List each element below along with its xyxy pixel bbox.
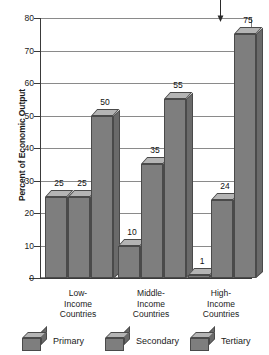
x-axis-line: [29, 278, 252, 279]
y-axis-tick-mark: [34, 278, 41, 279]
y-axis-tick-label: 0: [4, 273, 34, 283]
gridline: [41, 51, 252, 52]
y-axis-tick-mark: [34, 213, 41, 214]
y-axis-tick-label: 60: [4, 78, 34, 88]
bar-chart: Percent of Economic Output 8070605040302…: [0, 0, 269, 355]
legend-item-primary[interactable]: Primary: [22, 330, 84, 352]
category-label-line: High-: [183, 288, 259, 299]
y-axis-tick-mark: [34, 51, 41, 52]
bar-front-face: [234, 34, 256, 278]
y-axis-tick-label: 50: [4, 111, 34, 121]
bar-front-face: [68, 197, 90, 278]
legend-item-tertiary[interactable]: Tertiary: [190, 330, 251, 352]
bar-value-label: 55: [158, 80, 198, 90]
bar-primary-1: [45, 190, 67, 278]
chart-legend: PrimarySecondaryTertiary: [0, 330, 269, 355]
bar-side-face: [256, 28, 263, 278]
y-axis-tick-mark: [34, 116, 41, 117]
legend-item-secondary[interactable]: Secondary: [105, 330, 179, 352]
legend-label: Tertiary: [221, 336, 251, 346]
bar-side-face: [186, 93, 193, 278]
y-axis-tick-mark: [34, 148, 41, 149]
bar-secondary-2: [141, 157, 163, 278]
bar-front-face: [141, 164, 163, 278]
legend-cube-icon: [22, 332, 48, 351]
y-axis-tick-label: 80: [4, 13, 34, 23]
legend-cube-icon: [105, 332, 131, 351]
category-label-line: Middle-: [113, 288, 189, 299]
cube-front-face: [22, 338, 41, 351]
pointer-arrow-annotation: [216, 0, 225, 22]
cube-front-face: [190, 338, 209, 351]
category-label-1: Low-IncomeCountries: [40, 288, 116, 320]
bar-tertiary-1: [91, 109, 113, 279]
y-axis-tick-label: 20: [4, 208, 34, 218]
category-label-2: Middle-IncomeCountries: [113, 288, 189, 320]
bar-primary-2: [118, 239, 140, 279]
category-label-line: Countries: [113, 309, 189, 320]
bar-value-label: 50: [85, 97, 125, 107]
bar-front-face: [118, 246, 140, 279]
legend-label: Primary: [53, 336, 84, 346]
bar-secondary-3: [211, 193, 233, 278]
y-axis-tick-mark: [34, 83, 41, 84]
bar-front-face: [164, 99, 186, 278]
bar-front-face: [45, 197, 67, 278]
bar-front-face: [188, 275, 210, 278]
bar-tertiary-2: [164, 92, 186, 278]
y-axis-tick-mark: [34, 246, 41, 247]
y-axis-tick-label: 30: [4, 176, 34, 186]
category-label-line: Income: [113, 299, 189, 310]
cube-front-face: [105, 338, 124, 351]
category-label-3: High-IncomeCountries: [183, 288, 259, 320]
bar-secondary-1: [68, 190, 90, 278]
gridline: [41, 83, 252, 84]
legend-cube-icon: [190, 332, 216, 351]
bar-value-label: 75: [228, 15, 268, 25]
y-axis-tick-mark: [34, 18, 41, 19]
bar-primary-3: [188, 268, 210, 278]
bar-tertiary-3: [234, 27, 256, 278]
bar-front-face: [211, 200, 233, 278]
y-axis-tick-label: 40: [4, 143, 34, 153]
y-axis-tick-label: 70: [4, 46, 34, 56]
category-label-line: Income: [183, 299, 259, 310]
legend-label: Secondary: [136, 336, 179, 346]
category-label-line: Countries: [40, 309, 116, 320]
category-label-line: Countries: [183, 309, 259, 320]
category-label-line: Income: [40, 299, 116, 310]
gridline: [41, 116, 252, 117]
category-label-line: Low-: [40, 288, 116, 299]
y-axis-tick-label: 10: [4, 241, 34, 251]
bar-front-face: [91, 116, 113, 279]
